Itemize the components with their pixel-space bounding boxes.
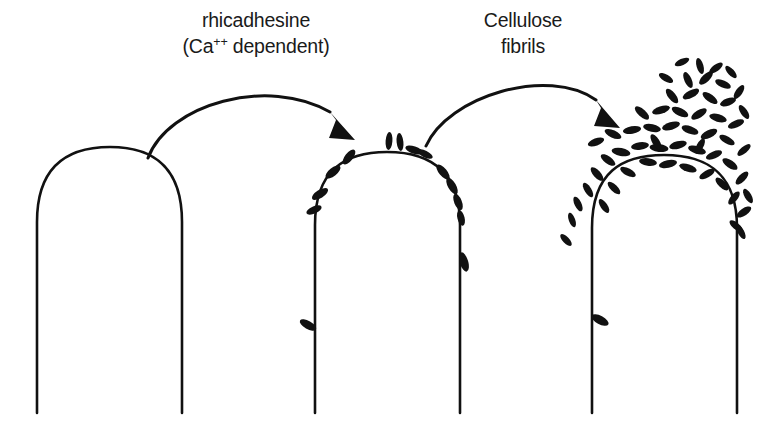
root-tip-outline <box>315 152 460 413</box>
bacteria-layer-stage-2 <box>298 132 471 333</box>
labels-group: rhicadhesine (Ca++ dependent) Cellulose … <box>183 9 563 57</box>
bacterium <box>736 142 753 158</box>
dependent-suffix: dependent) <box>228 35 330 57</box>
bacterium <box>599 152 617 168</box>
bacterium <box>589 165 606 183</box>
bacterium <box>631 141 650 151</box>
bacterium <box>668 139 687 151</box>
bacterium <box>708 112 727 124</box>
bacterium <box>642 122 661 133</box>
bacterium <box>385 132 393 150</box>
arrow-stage-1-to-2-head <box>329 112 355 140</box>
bacterium <box>737 103 752 120</box>
arrow-stage-2-to-3-head <box>594 100 620 128</box>
bacterium <box>603 127 623 141</box>
bacterium <box>714 77 732 90</box>
bacterium <box>566 212 577 228</box>
bacterium <box>606 180 623 196</box>
arrow-stage-1-to-2-shaft <box>148 96 330 158</box>
root-tip-stage-3-dense-biofilm <box>558 56 755 413</box>
bacterium <box>727 117 746 130</box>
bacterium <box>674 56 691 68</box>
bacterium <box>619 165 638 179</box>
bacterium <box>681 71 695 90</box>
bacterium <box>678 162 697 175</box>
bacterium <box>651 104 671 117</box>
ca-superscript: ++ <box>213 35 227 49</box>
arrow-stage-2-to-3-shaft <box>426 85 596 146</box>
bacterium <box>558 232 573 247</box>
bacterium <box>639 157 658 167</box>
bacterium <box>587 136 606 149</box>
bacterium <box>451 193 464 212</box>
bacterium <box>657 71 674 85</box>
cellulose-fibrils-label-line1: Cellulose <box>484 9 562 31</box>
bacterium <box>690 106 709 122</box>
bacterium <box>721 156 740 172</box>
root-colonization-figure: rhicadhesine (Ca++ dependent) Cellulose … <box>0 0 777 428</box>
bacterium <box>305 203 323 216</box>
bacterium <box>701 90 720 106</box>
bacterium <box>658 158 678 169</box>
bacterium <box>396 133 405 152</box>
cellulose-fibrils-label-line2: fibrils <box>501 35 546 57</box>
bacterium <box>664 87 681 106</box>
bacterium <box>622 125 641 136</box>
rhicadhesine-label-line1: rhicadhesine <box>202 9 310 31</box>
figure-canvas: rhicadhesine (Ca++ dependent) Cellulose … <box>0 0 777 428</box>
bacterium <box>597 197 612 214</box>
bacterium <box>456 209 467 226</box>
bacterium <box>633 104 651 122</box>
root-tip-outline <box>592 155 737 413</box>
bacterium <box>723 64 738 80</box>
bacterium <box>741 187 755 204</box>
bacterium <box>705 148 724 161</box>
bacterium <box>661 120 681 132</box>
root-tip-stage-2-sparse-attachment <box>298 132 471 413</box>
bacterium <box>581 181 595 199</box>
bacterium <box>694 57 705 75</box>
bacterium <box>681 86 700 101</box>
root-tip-stage-1-bare <box>37 147 182 413</box>
bacterium <box>611 146 631 157</box>
root-tip-outline <box>37 147 182 413</box>
ca-prefix: (Ca <box>183 35 214 57</box>
bacterium <box>734 169 751 186</box>
arrows-group <box>148 85 620 158</box>
bacterium <box>718 133 736 148</box>
bacterium <box>680 123 699 136</box>
bacterium <box>571 195 584 212</box>
rhicadhesine-label-line2: (Ca++ dependent) <box>183 35 330 57</box>
bacterium <box>670 105 690 120</box>
